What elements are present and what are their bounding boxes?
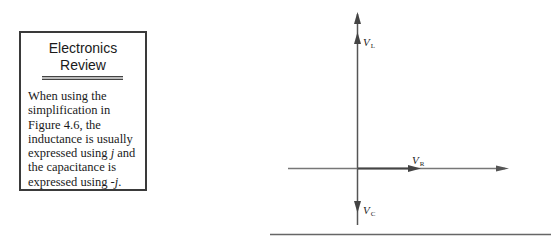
vr-label: VR bbox=[412, 154, 425, 168]
vc-label: VC bbox=[363, 204, 376, 218]
vc-arrowhead-icon bbox=[354, 201, 361, 213]
vl-label: VL bbox=[363, 36, 375, 50]
axis-top-arrowhead-icon bbox=[354, 12, 361, 24]
phasor-diagram: VL VR VC bbox=[0, 0, 558, 238]
vl-arrowhead-icon bbox=[354, 32, 361, 44]
axis-right-arrowhead-icon bbox=[496, 166, 509, 172]
